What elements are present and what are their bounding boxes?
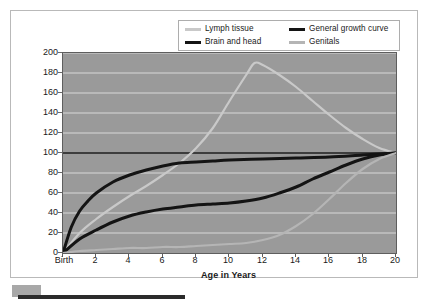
- x-tick-label-10: 10: [210, 256, 246, 265]
- y-tick-label-160: 160: [34, 88, 58, 97]
- legend-label-general-growth-curve: General growth curve: [309, 25, 388, 33]
- chart-legend: Lymph tissue General growth curve Brain …: [178, 20, 400, 51]
- series-line-lymph-tissue: [63, 62, 396, 253]
- y-tick-label-60: 60: [34, 188, 58, 197]
- legend-swatch-general-growth-curve: [289, 28, 305, 31]
- x-tick-label-20: 20: [377, 256, 413, 265]
- y-tick-label-40: 40: [34, 208, 58, 217]
- x-tick-label-12: 12: [244, 256, 280, 265]
- x-tick-label-2: 2: [77, 256, 113, 265]
- y-tick-label-80: 80: [34, 168, 58, 177]
- legend-entry-general-growth-curve: General growth curve: [289, 25, 399, 33]
- series-line-general-growth-curve: [63, 153, 396, 253]
- y-tick-label-180: 180: [34, 68, 58, 77]
- x-tick-label-8: 8: [177, 256, 213, 265]
- x-tick-label-6: 6: [144, 256, 180, 265]
- plot-area: [62, 52, 397, 254]
- legend-entry-brain-and-head: Brain and head: [185, 38, 289, 46]
- legend-label-genitals: Genitals: [309, 38, 339, 46]
- x-tick-label-14: 14: [277, 256, 313, 265]
- legend-entry-genitals: Genitals: [289, 38, 399, 46]
- x-tick-label-16: 16: [310, 256, 346, 265]
- series-lines: [63, 62, 396, 253]
- legend-swatch-brain-and-head: [185, 41, 201, 44]
- y-tick-label-100: 100: [34, 148, 58, 157]
- y-tick-label-200: 200: [34, 48, 58, 57]
- legend-entry-lymph-tissue: Lymph tissue: [185, 25, 289, 33]
- legend-label-lymph-tissue: Lymph tissue: [205, 25, 254, 33]
- legend-label-brain-and-head: Brain and head: [205, 38, 261, 46]
- x-tick-label-18: 18: [344, 256, 380, 265]
- x-axis-title: Age in Years: [62, 270, 395, 280]
- x-tick-label-4: 4: [110, 256, 146, 265]
- legend-swatch-genitals: [289, 41, 305, 44]
- y-tick-label-20: 20: [34, 228, 58, 237]
- caption-rule-bar: [18, 295, 185, 299]
- legend-swatch-lymph-tissue: [185, 28, 201, 31]
- y-tick-label-140: 140: [34, 108, 58, 117]
- chart-canvas: [63, 53, 396, 253]
- y-tick-label-120: 120: [34, 128, 58, 137]
